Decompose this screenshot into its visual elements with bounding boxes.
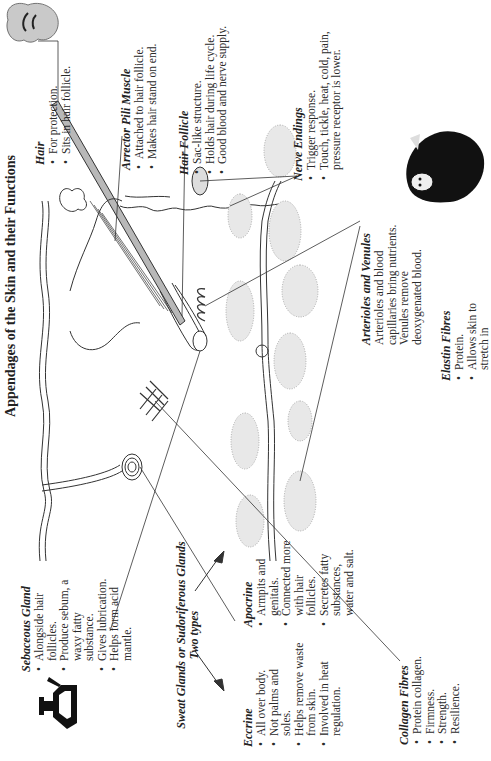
label-heading: Elastin Fibres xyxy=(440,271,453,381)
bullet: For protection. xyxy=(47,5,60,154)
label-heading: Nerve Endings xyxy=(292,1,305,181)
label-text: Arterioles and blood capillaries bring n… xyxy=(373,205,423,345)
label-heading: Apocrine xyxy=(242,537,255,627)
label-heading: Eccrine xyxy=(242,642,255,747)
label-collagen-fibres: Collagen Fibres Protein collagen. Firmne… xyxy=(398,605,461,745)
bullet: Protein. xyxy=(453,271,466,370)
bullet: Secretes fatty substances, water and sal… xyxy=(318,537,356,616)
label-arrector-pili: Arrector Pili Muscle Attached to hair fo… xyxy=(120,5,158,170)
label-heading: Arrector Pili Muscle xyxy=(120,5,133,170)
bullet: Holds hair during life cycle. xyxy=(204,0,217,164)
elastin-coil xyxy=(198,289,206,321)
label-apocrine: Apocrine Armpits and genitals. Connected… xyxy=(242,537,355,627)
bullet: Produce sebum, a waxy fatty substance. xyxy=(58,562,96,661)
bullet: Protein collagen. xyxy=(411,605,424,734)
bullet: Resilience. xyxy=(449,605,462,734)
bullet: Alongside hair follicles. xyxy=(33,562,58,661)
label-nerve-endings: Nerve Endings Trigger response. Touch, t… xyxy=(292,1,343,181)
bullet: Sac-like structure. xyxy=(191,0,204,164)
label-sweat-glands: Sweat Glands or Sudoriferous Glands Two … xyxy=(175,525,201,745)
bullet: Armpits and genitals. xyxy=(255,537,280,616)
label-subheading: Two types xyxy=(188,525,201,745)
bullet: Helps remove waste from skin. xyxy=(293,642,318,736)
bullet: Involved in heat regulation. xyxy=(318,642,343,736)
bullet: Firmness. xyxy=(424,605,437,734)
bullet: Helps form acid mantle. xyxy=(108,562,133,661)
bullet: Touch, tickle, heat, cold, pain, pressur… xyxy=(318,1,343,170)
label-eccrine: Eccrine All over body. Not palms and sol… xyxy=(242,642,343,747)
sweat-duct xyxy=(42,471,122,491)
cloaked-figure-icon xyxy=(400,128,486,210)
bullet: Trigger response. xyxy=(305,1,318,170)
label-elastin-fibres: Elastin Fibres Protein. Allows skin to s… xyxy=(440,271,491,381)
bullet: Gives lubrication. xyxy=(96,562,109,661)
bullet: Connected more with hair follicles. xyxy=(280,537,318,616)
bullet: Strength. xyxy=(436,605,449,734)
label-heading: Arterioles and Venules xyxy=(360,205,373,345)
oil-can-icon xyxy=(37,677,81,733)
bullet: All over body. xyxy=(255,642,268,736)
label-sebaceous-gland: Sebaceous Gland Alongside hair follicles… xyxy=(20,562,133,672)
label-hair: Hair For protection. Sits in hair follic… xyxy=(34,5,72,165)
bullet: Allows skin to stretch in xyxy=(466,271,491,370)
epidermis-surface xyxy=(39,201,45,561)
leader-elastin xyxy=(300,226,360,481)
label-heading: Collagen Fibres xyxy=(398,605,411,745)
bullet: Good blood and nerve supply. xyxy=(216,0,229,164)
label-hair-follicle: Hair Follicle Sac-like structure. Holds … xyxy=(178,0,229,175)
bullet: Sits in hair follicle. xyxy=(60,5,73,154)
label-heading: Hair Follicle xyxy=(178,0,191,175)
bullet: Attached to hair follicle. xyxy=(133,5,146,159)
label-heading: Hair xyxy=(34,5,47,165)
collagen-mesh xyxy=(140,381,168,421)
bullet: Not palms and soles. xyxy=(268,642,293,736)
label-arterioles-venules: Arterioles and Venules Arterioles and bl… xyxy=(360,205,423,345)
bullet: Makes hair stand on end. xyxy=(146,5,159,159)
label-heading: Sebaceous Gland xyxy=(20,562,33,672)
